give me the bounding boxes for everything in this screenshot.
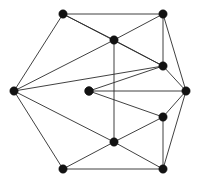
graph-edge <box>14 40 114 91</box>
graph-edge <box>89 91 163 117</box>
graph-edge <box>163 91 186 169</box>
graph-vertex-lower-right-inner <box>159 113 167 121</box>
graph-vertex-bottom-right <box>159 165 167 173</box>
graph-vertex-left <box>10 87 18 95</box>
graph-edge <box>163 14 186 91</box>
graph-edge <box>14 91 114 142</box>
graph-diagram <box>0 0 200 183</box>
graph-canvas <box>0 0 200 183</box>
graph-vertex-upper-right-inner <box>159 62 167 70</box>
graph-vertex-bottom-left <box>59 165 67 173</box>
edge-layer <box>14 14 186 169</box>
graph-edge <box>14 14 63 91</box>
graph-edge <box>114 40 163 66</box>
graph-edge <box>63 142 114 169</box>
graph-edge <box>114 117 163 142</box>
graph-vertex-top-left <box>59 10 67 18</box>
graph-vertex-right <box>182 87 190 95</box>
graph-vertex-lower-middle <box>110 138 118 146</box>
graph-edge <box>14 91 63 169</box>
graph-vertex-top-right <box>159 10 167 18</box>
graph-edge <box>114 14 163 40</box>
graph-vertex-upper-middle <box>110 36 118 44</box>
graph-edge <box>89 66 163 91</box>
graph-vertex-center-node <box>85 87 93 95</box>
graph-edge <box>114 142 163 169</box>
